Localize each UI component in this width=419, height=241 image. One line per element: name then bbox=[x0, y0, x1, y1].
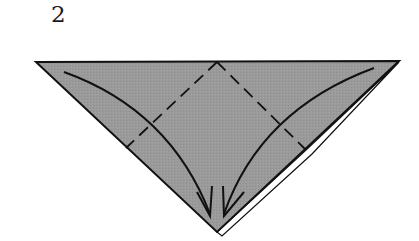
paper-triangle bbox=[36, 61, 399, 232]
fold-diagram bbox=[0, 0, 419, 241]
